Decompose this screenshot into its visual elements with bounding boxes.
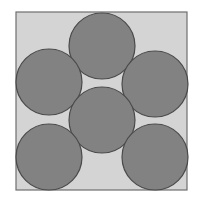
circle-packing-diagram <box>0 0 198 202</box>
circle-bottom-right <box>122 124 188 190</box>
diagram-canvas <box>0 0 198 202</box>
circle-bottom-left <box>16 124 82 190</box>
